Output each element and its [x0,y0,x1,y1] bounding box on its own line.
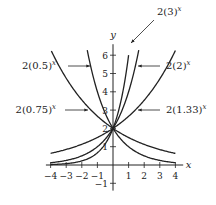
label-2-2x: 2(2)x [166,59,191,71]
annotations: 2(3)x2(2)x2(1.33)x2(0.5)x2(0.75)x [16,5,207,115]
x-axis-label: x [186,159,192,170]
x-tick-label: 2 [141,171,147,181]
curve-2(0.5)^x [87,50,175,163]
x-tick-label: −3 [60,171,74,181]
label-2-0.5x: 2(0.5)x [22,59,56,71]
label-2-0.75x: 2(0.75)x [16,103,56,115]
y-tick-label: 6 [102,51,108,61]
curve-2(2)^x [51,50,139,163]
y-tick-label: −1 [95,179,108,189]
x-tick-label: −2 [75,171,88,181]
label-2-3x: 2(3)x [157,5,182,17]
x-tick-label: 4 [173,171,179,181]
x-tick-label: 3 [157,171,163,181]
x-tick-label: −4 [44,171,58,181]
exponential-chart: −4−3−2−11234−1123456yx 2(3)x2(2)x2(1.33)… [0,0,216,205]
y-tick-label: 4 [102,87,108,97]
label-2-1.33x: 2(1.33)x [166,103,206,115]
x-tick-label: 1 [126,171,132,181]
y-tick-label: 5 [102,69,108,79]
y-axis-label: y [109,29,116,40]
